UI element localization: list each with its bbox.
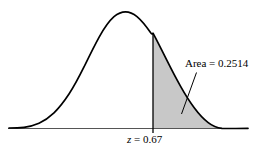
z-value-label: z = 0.67 bbox=[127, 134, 162, 145]
area-annotation-text: Area = 0.2514 bbox=[185, 57, 248, 69]
z-value-text: = 0.67 bbox=[131, 133, 162, 145]
normal-density-curve bbox=[9, 12, 248, 129]
area-annotation-label: Area = 0.2514 bbox=[185, 58, 248, 69]
distribution-plot bbox=[0, 0, 258, 153]
normal-curve-figure: Area = 0.2514 z = 0.67 bbox=[0, 0, 258, 153]
